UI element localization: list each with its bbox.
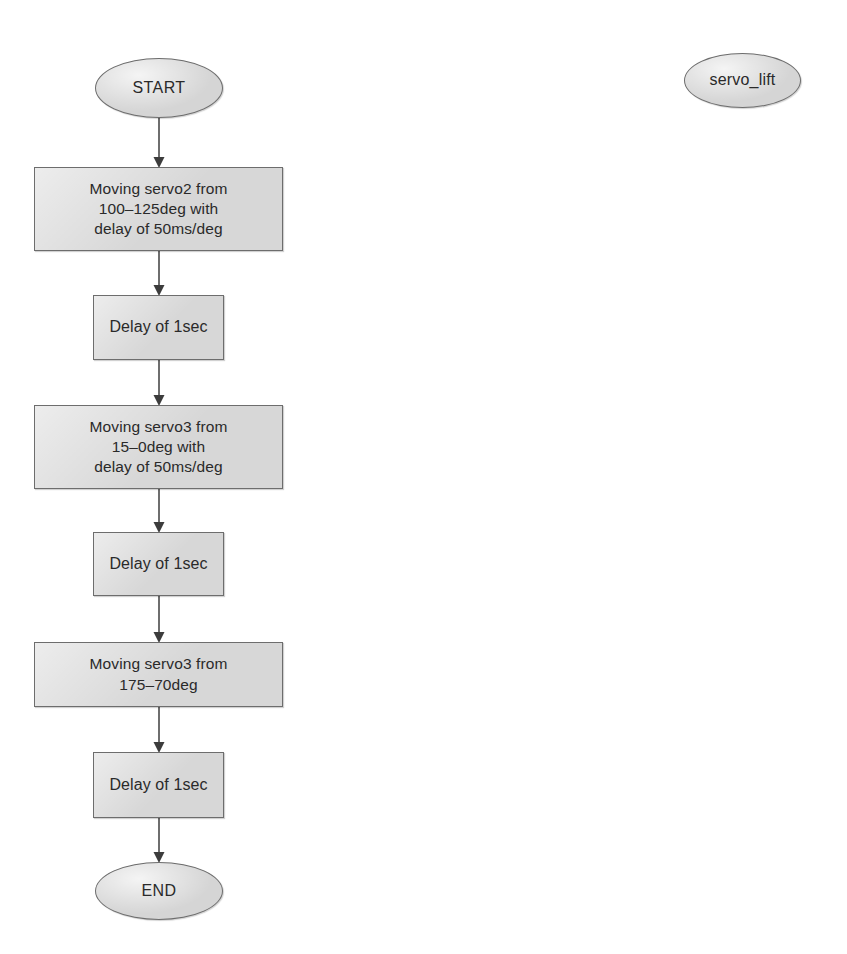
edge-move-servo3-delay-2 bbox=[154, 489, 165, 533]
node-delay-3[interactable]: Delay of 1sec bbox=[93, 752, 224, 818]
edge-start-move-servo2 bbox=[154, 118, 165, 168]
node-delay-3-label: Delay of 1sec bbox=[103, 775, 213, 796]
node-move-servo3-15-0-label: Moving servo3 from 15–0deg with delay of… bbox=[84, 417, 234, 477]
node-end-label: END bbox=[136, 881, 183, 902]
node-move-servo2[interactable]: Moving servo2 from 100–125deg with delay… bbox=[34, 167, 283, 251]
node-end[interactable]: END bbox=[95, 862, 223, 920]
node-move-servo2-label: Moving servo2 from 100–125deg with delay… bbox=[84, 179, 234, 239]
flowchart-canvas: STARTMoving servo2 from 100–125deg with … bbox=[0, 0, 847, 954]
node-start-label: START bbox=[127, 78, 192, 99]
edge-delay-2-move-servo3-175 bbox=[154, 596, 165, 643]
edge-move-servo2-delay-1 bbox=[154, 251, 165, 296]
servo-lift-tag-label: servo_lift bbox=[703, 70, 781, 91]
node-servo-lift-tag[interactable]: servo_lift bbox=[684, 53, 801, 108]
edge-move-servo3-175-delay-3 bbox=[154, 707, 165, 753]
node-move-servo3-175-70[interactable]: Moving servo3 from 175–70deg bbox=[34, 642, 283, 707]
node-start[interactable]: START bbox=[95, 58, 223, 118]
node-move-servo3-15-0[interactable]: Moving servo3 from 15–0deg with delay of… bbox=[34, 405, 283, 489]
node-delay-2[interactable]: Delay of 1sec bbox=[93, 532, 224, 596]
node-delay-1[interactable]: Delay of 1sec bbox=[93, 295, 224, 360]
node-delay-1-label: Delay of 1sec bbox=[103, 317, 213, 338]
node-move-servo3-175-70-label: Moving servo3 from 175–70deg bbox=[84, 654, 234, 694]
edge-delay-3-end bbox=[154, 818, 165, 863]
node-delay-2-label: Delay of 1sec bbox=[103, 554, 213, 575]
edge-delay-1-move-servo3 bbox=[154, 360, 165, 406]
